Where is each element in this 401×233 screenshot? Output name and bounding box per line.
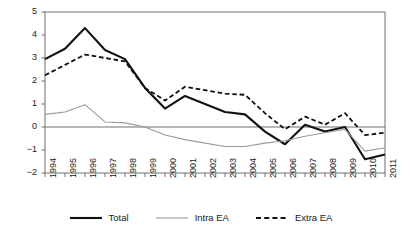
x-tick-label: 2010: [369, 158, 378, 178]
legend-label-total: Total: [109, 213, 129, 223]
legend-label-extra-ea: Extra EA: [295, 213, 333, 223]
y-tick-label: 2: [21, 76, 37, 85]
line-chart: 543210−1−2 19941995199619971998199920002…: [0, 0, 401, 233]
legend-swatch-intra-ea: [155, 213, 189, 223]
x-tick-label: 2006: [289, 158, 298, 178]
x-tick-label: 1995: [69, 158, 78, 178]
x-tick-label: 1996: [89, 158, 98, 178]
legend-item-extra-ea: Extra EA: [255, 213, 333, 223]
legend-swatch-total: [69, 213, 103, 223]
x-tick-label: 2008: [329, 158, 338, 178]
y-tick-label: −1: [21, 145, 37, 154]
chart-legend: Total Intra EA Extra EA: [0, 208, 401, 228]
y-tick-label: 5: [21, 7, 37, 16]
y-tick-label: 3: [21, 53, 37, 62]
x-tick-label: 1994: [49, 158, 58, 178]
y-tick-label: 1: [21, 99, 37, 108]
x-tick-label: 2000: [169, 158, 178, 178]
series-line-intra-ea: [45, 105, 385, 151]
x-tick-label: 2004: [249, 158, 258, 178]
x-tick-label: 1997: [109, 158, 118, 178]
x-tick-label: 2002: [209, 158, 218, 178]
x-tick-label: 2001: [189, 158, 198, 178]
x-tick-label: 2009: [349, 158, 358, 178]
x-tick-label: 2003: [229, 158, 238, 178]
x-tick-label: 1999: [149, 158, 158, 178]
legend-swatch-extra-ea: [255, 213, 289, 223]
x-tick-label: 2011: [389, 159, 398, 178]
x-tick-label: 2007: [309, 158, 318, 178]
plot-area: [0, 0, 401, 233]
y-tick-label: 0: [21, 122, 37, 131]
legend-item-intra-ea: Intra EA: [155, 213, 229, 223]
y-tick-label: 4: [21, 30, 37, 39]
x-tick-label: 2005: [269, 158, 278, 178]
legend-item-total: Total: [69, 213, 129, 223]
legend-label-intra-ea: Intra EA: [195, 213, 229, 223]
x-tick-label: 1998: [129, 158, 138, 178]
series-line-total: [45, 28, 385, 159]
series-group: [45, 28, 385, 159]
series-line-extra-ea: [45, 55, 385, 136]
y-tick-label: −2: [21, 168, 37, 177]
